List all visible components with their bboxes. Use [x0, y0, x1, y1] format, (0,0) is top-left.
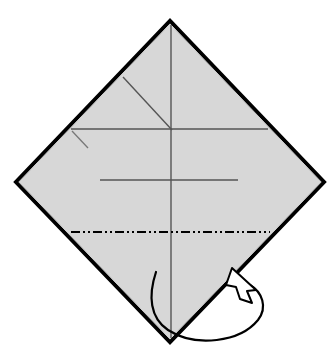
origami-diagram-root: Origami step diagram: square sheet rotat…	[0, 0, 336, 359]
origami-figure: Origami step diagram: square sheet rotat…	[0, 0, 336, 359]
